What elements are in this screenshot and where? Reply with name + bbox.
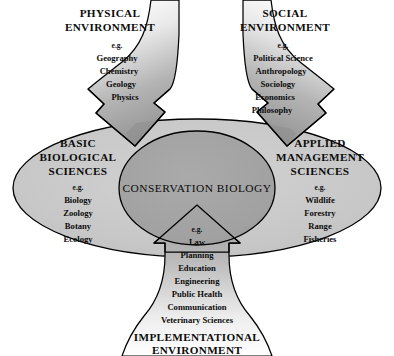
- basic-item-4: Ecology: [63, 234, 93, 244]
- social-eg-label: e.g.: [278, 41, 289, 50]
- impl-item-3: Education: [178, 263, 216, 273]
- impl-item-7: Veterinary Sciences: [161, 315, 234, 325]
- impl-item-5: Public Health: [172, 289, 223, 299]
- social-item-4: Economics: [255, 92, 295, 102]
- impl-title-line-1: IMPLEMENTATIONAL: [134, 331, 260, 343]
- basic-item-3: Botany: [65, 221, 92, 231]
- basic-item-1: Biology: [64, 195, 92, 205]
- physical-eg-label: e.g.: [112, 41, 123, 50]
- applied-item-4: Fisheries: [304, 234, 338, 244]
- social-item-1: Political Science: [253, 53, 313, 63]
- applied-eg-label: e.g.: [315, 183, 326, 192]
- impl-title-line-2: ENVIRONMENT: [152, 344, 242, 356]
- social-title-line-2: ENVIRONMENT: [240, 21, 330, 33]
- impl-item-2: Planning: [181, 250, 215, 260]
- basic-title-line-3: SCIENCES: [49, 165, 108, 177]
- impl-eg-label: e.g.: [192, 225, 203, 234]
- social-item-3: Sociology: [261, 79, 297, 89]
- basic-item-2: Zoology: [63, 208, 93, 218]
- impl-item-1: Law: [189, 237, 206, 247]
- social-item-2: Anthropology: [256, 66, 308, 76]
- physical-item-4: Physics: [111, 92, 139, 102]
- physical-title-line-2: ENVIRONMENT: [65, 21, 155, 33]
- applied-title-line-1: APPLIED: [294, 137, 346, 149]
- applied-item-1: Wildlife: [305, 195, 335, 205]
- basic-title-line-1: BASIC: [60, 137, 96, 149]
- applied-item-2: Forestry: [304, 208, 336, 218]
- core-label: CONSERVATION BIOLOGY: [122, 182, 271, 194]
- applied-title-line-3: SCIENCES: [291, 165, 350, 177]
- impl-item-6: Communication: [167, 302, 226, 312]
- basic-title-line-2: BIOLOGICAL: [40, 151, 117, 163]
- physical-item-1: Geography: [96, 53, 138, 63]
- conservation-biology-diagram: PHYSICAL ENVIRONMENT e.g. Geography Chem…: [0, 0, 394, 356]
- physical-title-line-1: PHYSICAL: [80, 7, 141, 19]
- applied-title-line-2: MANAGEMENT: [276, 151, 364, 163]
- physical-item-3: Geology: [106, 79, 137, 89]
- physical-item-2: Chemistry: [100, 66, 139, 76]
- applied-item-3: Range: [308, 221, 332, 231]
- social-title-line-1: SOCIAL: [263, 7, 308, 19]
- impl-item-4: Engineering: [175, 276, 221, 286]
- basic-eg-label: e.g.: [73, 183, 84, 192]
- social-item-5: Philosophy: [252, 105, 293, 115]
